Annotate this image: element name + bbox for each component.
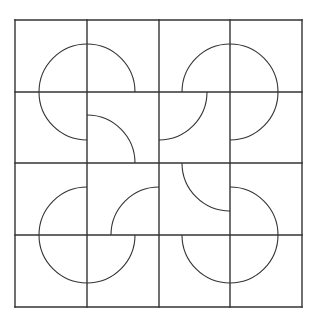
quarter-arc-upper-left [111, 187, 159, 235]
quarter-arc-lower-right [159, 92, 207, 140]
tile-grid-diagram [0, 0, 319, 322]
quarter-arc-lower-left [39, 235, 87, 283]
quarter-arc-upper-right [87, 115, 135, 163]
quarter-arc-lower-left [39, 92, 87, 140]
grid-lines [15, 20, 302, 307]
quarter-arc-upper-right [230, 187, 278, 235]
quarter-arc-lower-left [182, 163, 230, 211]
quarter-arc-upper-right [87, 44, 135, 92]
quarter-arc-lower-right [230, 92, 278, 140]
quarter-arc-upper-left [39, 44, 87, 92]
quarter-arc-lower-left [182, 235, 230, 283]
quarter-arc-lower-right [87, 235, 135, 283]
quarter-arc-upper-right [230, 44, 278, 92]
quarter-arc-upper-left [39, 187, 87, 235]
quarter-arc-upper-left [182, 44, 230, 92]
quarter-arc-lower-right [230, 235, 278, 283]
